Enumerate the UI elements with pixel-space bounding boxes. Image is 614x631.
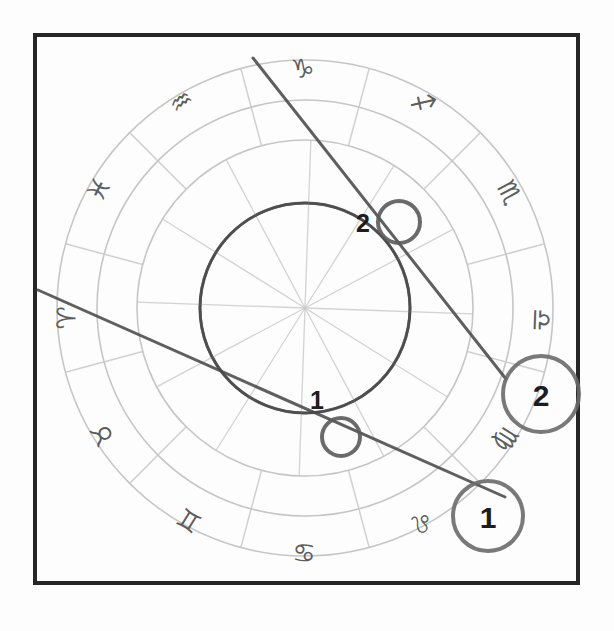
marker-inner-1-label: 1: [310, 386, 324, 414]
astrology-chart-svg: ♑♒♓♈♉♊♋♌♍♎♏♐ 2211: [0, 0, 614, 631]
marker-inner-2-label: 2: [356, 209, 370, 237]
marker-outer-1-label: 1: [480, 501, 497, 534]
astrology-chart-container: ♑♒♓♈♉♊♋♌♍♎♏♐ 2211: [0, 0, 614, 631]
zodiac-glyph-capricorn: ♑: [290, 53, 316, 85]
marker-outer-2-label: 2: [533, 379, 550, 412]
zodiac-glyph-libra: ♎: [526, 308, 557, 332]
zodiac-glyph-cancer: ♋: [292, 537, 316, 568]
zodiac-glyph-aries: ♈: [51, 306, 82, 330]
